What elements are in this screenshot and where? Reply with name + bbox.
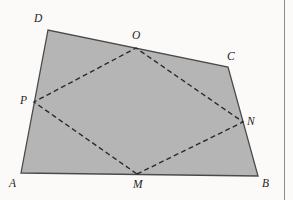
midpoint-label-o: O [132,30,140,42]
diagram-page: A B C D M N O P [0,0,293,200]
vertex-label-a: A [9,178,16,190]
vertex-label-d: D [34,13,42,25]
quadrilateral-abcd [21,30,258,176]
midpoint-label-p: P [20,95,27,107]
midpoint-label-m: M [133,179,143,191]
page-margin-rule [284,0,285,200]
vertex-label-c: C [227,51,235,63]
geometry-figure [0,0,293,200]
midpoint-label-n: N [247,116,255,128]
vertex-label-b: B [262,178,269,190]
